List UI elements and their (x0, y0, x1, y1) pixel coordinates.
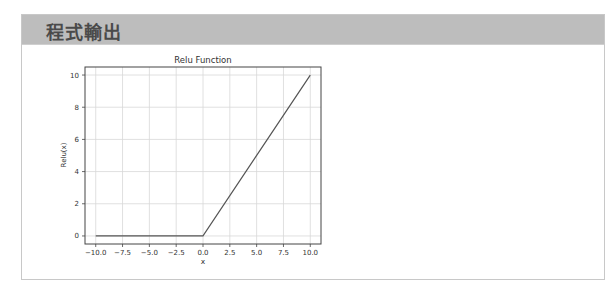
x-tick-label: −10.0 (85, 249, 106, 257)
x-tick-label: 0.0 (197, 249, 208, 257)
x-tick-label: 5.0 (251, 249, 262, 257)
y-tick-label: 6 (75, 136, 80, 144)
x-tick-label: 2.5 (224, 249, 235, 257)
x-tick-label: −5.0 (141, 249, 158, 257)
y-tick-label: 10 (70, 72, 79, 80)
y-axis-label: Relu(x) (60, 142, 68, 167)
relu-chart: Relu Function −10.0−7.5−5.0−2.50.02.55.0… (0, 0, 607, 296)
x-tick-label: −2.5 (168, 249, 185, 257)
y-tick-label: 0 (75, 232, 79, 240)
y-tick-label: 2 (75, 200, 79, 208)
x-tick-label: −7.5 (114, 249, 131, 257)
grid-lines (85, 67, 321, 244)
y-tick-label: 4 (75, 168, 80, 176)
chart-title: Relu Function (174, 55, 231, 65)
x-axis-ticks: −10.0−7.5−5.0−2.50.02.55.07.510.0 (85, 244, 318, 257)
x-axis-label: x (201, 257, 206, 266)
x-tick-label: 7.5 (278, 249, 289, 257)
y-tick-label: 8 (75, 104, 79, 112)
x-tick-label: 10.0 (302, 249, 318, 257)
y-axis-ticks: 0246810 (70, 72, 85, 241)
